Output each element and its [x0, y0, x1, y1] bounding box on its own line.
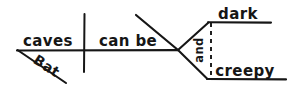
diagram-drawing: caves Bat can be and dark creepy — [0, 0, 294, 94]
sentence-diagram-canvas: caves Bat can be and dark creepy — [0, 0, 294, 94]
complement-label-creepy: creepy — [215, 62, 275, 80]
modifier-label: Bat — [31, 51, 63, 80]
subject-label: caves — [23, 32, 73, 50]
conjunction-label: and — [192, 37, 206, 62]
predicate-label: can be — [99, 32, 157, 50]
complement-label-dark: dark — [218, 5, 258, 23]
subject-predicate-divider-stroke — [84, 14, 85, 72]
